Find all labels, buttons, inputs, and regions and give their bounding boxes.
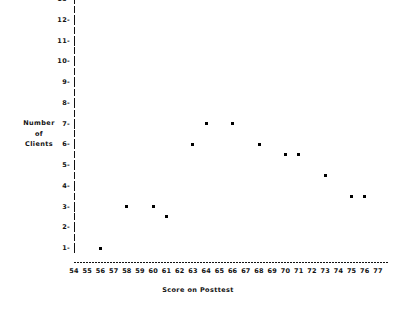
y-axis-segment <box>74 202 75 212</box>
y-tick-3: 3- <box>48 203 70 211</box>
y-axis-segment <box>74 119 75 129</box>
y-axis-segment <box>74 15 75 25</box>
data-point <box>324 174 327 177</box>
scatter-plot: Number of Clients 1-2-3-4-5-6-7-8-9-10-1… <box>0 0 396 309</box>
data-point <box>165 215 168 218</box>
data-point <box>231 122 234 125</box>
y-tick-2: 2- <box>48 223 70 231</box>
data-point <box>205 122 208 125</box>
data-point <box>99 247 102 250</box>
y-axis-segment <box>74 130 75 137</box>
y-axis-segment <box>74 36 75 46</box>
y-axis-segment <box>74 77 75 87</box>
y-axis-segment <box>74 6 75 13</box>
y-axis-segment <box>74 234 75 241</box>
y-axis-segment <box>74 89 75 96</box>
y-tick-7: 7- <box>48 120 70 128</box>
data-point <box>350 195 353 198</box>
y-axis-segment <box>74 98 75 108</box>
y-tick-1: 1- <box>48 244 70 252</box>
x-axis-line <box>74 262 389 263</box>
y-axis-segment <box>74 151 75 158</box>
y-axis-segment <box>74 0 75 4</box>
y-axis-segment <box>74 110 75 117</box>
y-tick-11: 11- <box>48 37 70 45</box>
data-point <box>258 143 261 146</box>
y-axis-segment <box>74 56 75 66</box>
y-axis-segment <box>74 139 75 149</box>
y-axis-segment <box>74 68 75 75</box>
y-axis-segment <box>74 47 75 54</box>
y-tick-8: 8- <box>48 99 70 107</box>
y-axis-label-line-2: of <box>8 129 70 140</box>
y-axis-segment <box>74 27 75 34</box>
y-tick-9: 9- <box>48 78 70 86</box>
data-point <box>284 153 287 156</box>
y-tick-5: 5- <box>48 161 70 169</box>
data-point <box>363 195 366 198</box>
y-axis-segment <box>74 213 75 220</box>
data-point <box>297 153 300 156</box>
y-axis-segment <box>74 160 75 170</box>
y-axis-segment <box>74 193 75 200</box>
y-tick-12: 12- <box>48 16 70 24</box>
data-point <box>125 205 128 208</box>
data-point <box>152 205 155 208</box>
x-axis-label: Score on Posttest <box>0 286 396 294</box>
y-tick-4: 4- <box>48 182 70 190</box>
data-point <box>191 143 194 146</box>
y-axis-segment <box>74 222 75 232</box>
y-tick-10: 10- <box>48 57 70 65</box>
x-tick-77: 77 <box>370 267 386 275</box>
y-axis-segment <box>74 181 75 191</box>
y-tick-13: 13- <box>48 0 70 3</box>
y-axis-segment <box>74 243 75 253</box>
y-axis-segment <box>74 172 75 179</box>
y-tick-6: 6- <box>48 140 70 148</box>
